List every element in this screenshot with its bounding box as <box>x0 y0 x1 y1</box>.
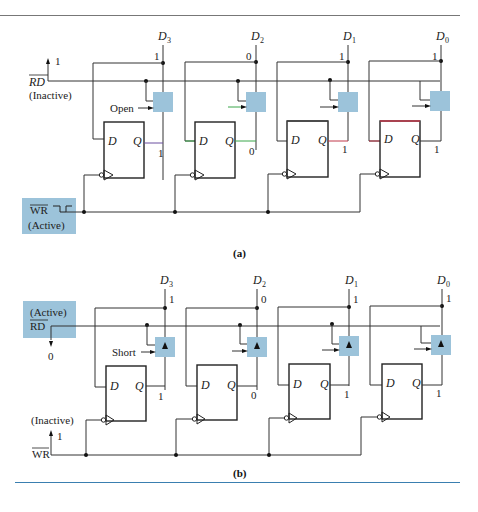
svg-text:D: D <box>157 29 167 43</box>
svg-text:0: 0 <box>261 293 267 305</box>
svg-text:D: D <box>342 29 352 43</box>
svg-text:D: D <box>383 132 393 146</box>
svg-text:1: 1 <box>446 292 452 304</box>
rd-level: 1 <box>55 55 61 67</box>
svg-text:D: D <box>198 134 208 148</box>
svg-text:3: 3 <box>167 36 171 45</box>
tri-state-buffer <box>153 92 173 112</box>
rd-label: RD <box>28 75 45 89</box>
svg-text:Q: Q <box>318 133 327 147</box>
svg-text:1: 1 <box>436 387 442 399</box>
up-arrow-icon <box>46 58 50 64</box>
svg-text:D: D <box>109 379 119 393</box>
tri-state-buffer <box>246 92 266 112</box>
svg-text:1: 1 <box>158 147 164 159</box>
wr-state: (Inactive) <box>31 414 74 427</box>
flip-flop <box>195 122 235 178</box>
svg-text:1: 1 <box>154 50 160 62</box>
svg-text:D: D <box>200 378 210 392</box>
flip-flop <box>382 364 422 419</box>
svg-text:1: 1 <box>354 280 358 289</box>
flip-flop <box>104 122 144 178</box>
caption-b: (b) <box>233 467 247 480</box>
svg-text:Q: Q <box>412 376 421 390</box>
bit-1-cell: D 1 1 D Q 1 <box>267 273 359 457</box>
svg-text:1: 1 <box>344 388 350 400</box>
svg-text:D: D <box>290 133 300 147</box>
svg-text:Q: Q <box>135 379 144 393</box>
svg-text:Q: Q <box>227 378 236 392</box>
svg-text:1: 1 <box>169 293 175 305</box>
svg-text:3: 3 <box>169 280 173 289</box>
svg-text:0: 0 <box>251 389 257 401</box>
svg-text:1: 1 <box>353 293 359 305</box>
svg-text:1: 1 <box>432 50 438 62</box>
down-arrow-icon <box>49 341 53 347</box>
svg-text:1: 1 <box>434 143 440 155</box>
svg-text:0: 0 <box>246 50 252 62</box>
svg-text:Open: Open <box>110 102 134 114</box>
bit-3-cell: D 3 1 Short D Q 1 <box>84 273 175 457</box>
svg-text:D: D <box>250 29 260 43</box>
wr-state: (Active) <box>28 219 65 232</box>
svg-text:D: D <box>292 377 302 391</box>
svg-text:D: D <box>252 273 262 287</box>
register-read-write-diagram: WR (Active) 1 RD (Inactive) D 3 1 Open <box>0 0 478 512</box>
tri-state-buffer <box>430 91 450 111</box>
bit-2-cell: D 2 0 D Q 0 <box>173 29 266 214</box>
svg-text:D: D <box>159 273 169 287</box>
rd-label: RD <box>30 320 45 332</box>
svg-text:1: 1 <box>352 36 356 45</box>
bit-0-cell: D 0 1 D Q 1 <box>361 273 452 455</box>
wr-label: WR <box>32 448 50 460</box>
bit-3-cell: D 3 1 Open D Q 1 <box>82 29 173 214</box>
up-arrow-icon <box>49 430 53 436</box>
svg-text:D: D <box>435 29 445 43</box>
svg-text:Q: Q <box>225 134 234 148</box>
svg-text:0: 0 <box>249 145 255 157</box>
bit-0-cell: D 0 1 D Q 1 <box>360 29 450 212</box>
flip-flop <box>289 364 330 419</box>
svg-text:1: 1 <box>339 50 345 62</box>
svg-text:D: D <box>344 273 354 287</box>
svg-text:1: 1 <box>342 143 348 155</box>
wr-level: 1 <box>57 430 63 442</box>
bit-1-cell: D 1 1 D Q 1 <box>266 29 358 214</box>
svg-text:0: 0 <box>445 36 449 45</box>
flip-flop <box>106 366 146 421</box>
svg-text:Q: Q <box>320 377 329 391</box>
svg-text:2: 2 <box>260 36 264 45</box>
rd-state: (Active) <box>30 306 67 319</box>
rd-level: 0 <box>48 350 54 362</box>
svg-text:Q: Q <box>411 132 420 146</box>
panel-b: (Active) RD 0 (Inactive) 1 WR D 3 1 Shor… <box>23 273 452 480</box>
bit-2-cell: D 2 0 D Q 0 <box>174 273 267 457</box>
svg-text:Q: Q <box>133 134 142 148</box>
flip-flop <box>287 121 328 177</box>
wr-label: WR <box>30 204 48 216</box>
svg-text:2: 2 <box>262 280 266 289</box>
rd-state: (Inactive) <box>29 89 72 102</box>
svg-text:0: 0 <box>446 280 450 289</box>
flip-flop <box>197 365 237 420</box>
panel-a: WR (Active) 1 RD (Inactive) D 3 1 Open <box>22 29 450 260</box>
svg-text:Short: Short <box>112 346 136 358</box>
svg-text:D: D <box>385 376 395 390</box>
svg-text:1: 1 <box>158 390 164 402</box>
caption-a: (a) <box>233 247 246 260</box>
svg-text:D: D <box>436 273 446 287</box>
svg-text:D: D <box>107 134 117 148</box>
tri-state-buffer <box>338 92 358 112</box>
flip-flop <box>380 121 420 177</box>
